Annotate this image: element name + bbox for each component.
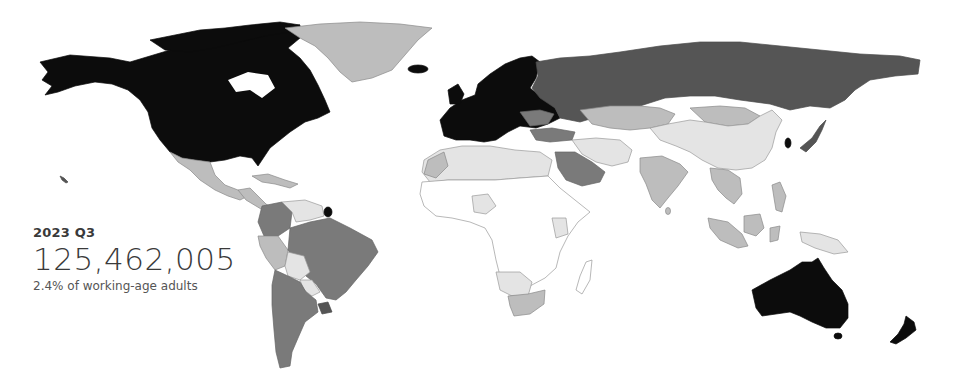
region-peru[interactable]	[258, 236, 288, 270]
region-uruguay[interactable]	[318, 302, 332, 314]
region-iceland[interactable]	[408, 65, 428, 73]
region-japan[interactable]	[800, 120, 826, 152]
region-indonesia[interactable]	[708, 218, 748, 248]
region-papua-new-guinea[interactable]	[800, 232, 848, 254]
region-southeast-asia[interactable]	[710, 168, 742, 204]
region-borneo[interactable]	[744, 214, 764, 236]
choropleth-svg	[0, 0, 960, 388]
region-madagascar[interactable]	[576, 260, 592, 294]
region-sri-lanka[interactable]	[666, 208, 671, 215]
stat-overlay: 2023 Q3 125,462,005 2.4% of working-age …	[33, 225, 236, 293]
total-value: 125,462,005	[33, 242, 236, 276]
region-philippines[interactable]	[772, 182, 786, 212]
region-turkey[interactable]	[530, 128, 575, 142]
region-french-guiana[interactable]	[324, 207, 332, 217]
region-india[interactable]	[640, 156, 688, 208]
region-sulawesi[interactable]	[770, 226, 780, 242]
region-australia[interactable]	[752, 258, 848, 328]
region-hawaii[interactable]	[60, 176, 68, 183]
region-new-zealand[interactable]	[890, 316, 916, 344]
region-caribbean[interactable]	[252, 174, 298, 188]
region-tasmania[interactable]	[834, 333, 842, 339]
world-map	[0, 0, 960, 388]
period-label: 2023 Q3	[33, 225, 236, 240]
value-caption: 2.4% of working-age adults	[33, 279, 236, 293]
region-south-korea[interactable]	[785, 138, 791, 148]
